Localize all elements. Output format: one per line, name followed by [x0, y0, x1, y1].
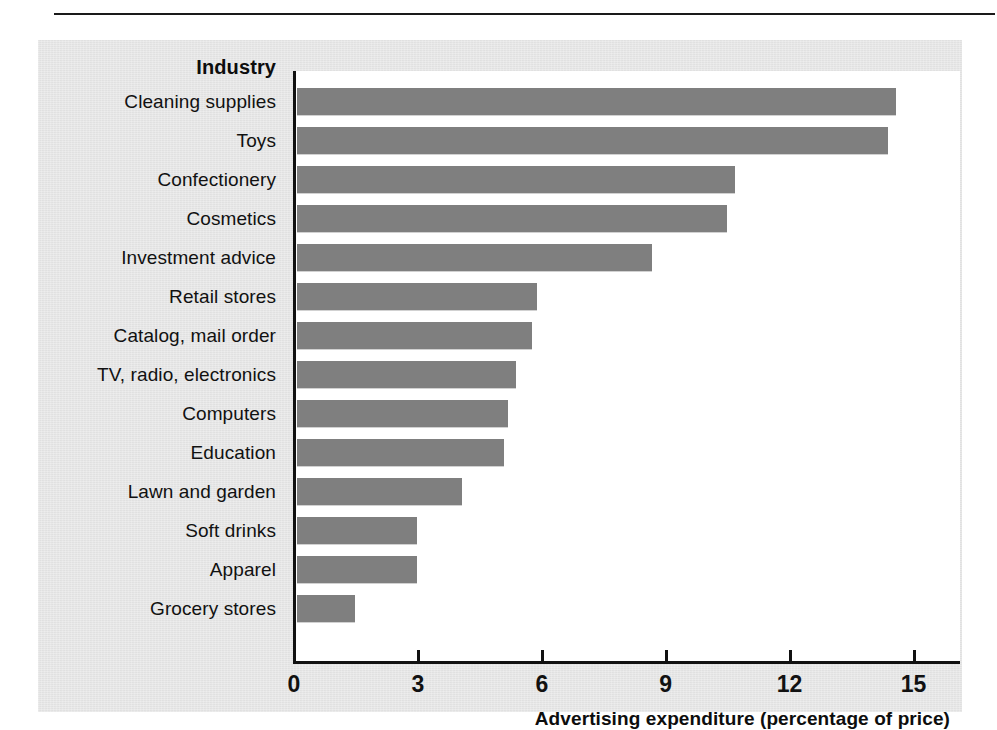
- x-axis-title: Advertising expenditure (percentage of p…: [38, 708, 950, 730]
- bar-row: [297, 433, 896, 472]
- figure-panel: Industry Cleaning suppliesToysConfection…: [38, 40, 962, 712]
- x-axis-tick-label: 0: [274, 671, 314, 698]
- x-axis-tick: [417, 650, 420, 664]
- bar: [297, 517, 417, 544]
- bar: [297, 88, 896, 115]
- x-axis-tick: [913, 650, 916, 664]
- category-label: Retail stores: [38, 277, 286, 316]
- bar-series: [297, 82, 896, 628]
- x-axis-tick-label: 6: [522, 671, 562, 698]
- bar-row: [297, 238, 896, 277]
- bar: [297, 400, 508, 427]
- bar-row: [297, 511, 896, 550]
- category-label: Investment advice: [38, 238, 286, 277]
- y-axis-line: [293, 71, 296, 663]
- category-label: Soft drinks: [38, 511, 286, 550]
- category-label: Grocery stores: [38, 589, 286, 628]
- bar-row: [297, 82, 896, 121]
- category-label: Computers: [38, 394, 286, 433]
- bar-row: [297, 550, 896, 589]
- category-label: Catalog, mail order: [38, 316, 286, 355]
- x-axis-tick: [541, 650, 544, 664]
- bar-row: [297, 355, 896, 394]
- x-axis-tick-label: 15: [894, 671, 934, 698]
- bar: [297, 283, 537, 310]
- category-label: Lawn and garden: [38, 472, 286, 511]
- category-label: Confectionery: [38, 160, 286, 199]
- bar-row: [297, 472, 896, 511]
- x-axis-line: [293, 661, 960, 664]
- category-axis-title: Industry: [38, 52, 286, 82]
- bar: [297, 205, 727, 232]
- bar: [297, 556, 417, 583]
- bar: [297, 322, 532, 349]
- x-axis-tick: [789, 650, 792, 664]
- bar-row: [297, 121, 896, 160]
- bar-row: [297, 394, 896, 433]
- category-label: TV, radio, electronics: [38, 355, 286, 394]
- category-label: Cosmetics: [38, 199, 286, 238]
- category-label: Apparel: [38, 550, 286, 589]
- bar: [297, 478, 462, 505]
- x-axis-tick-label: 12: [770, 671, 810, 698]
- bar-row: [297, 589, 896, 628]
- category-label: Education: [38, 433, 286, 472]
- bar: [297, 166, 735, 193]
- x-axis-tick-label: 3: [398, 671, 438, 698]
- bar-row: [297, 316, 896, 355]
- bar: [297, 244, 652, 271]
- bar-row: [297, 199, 896, 238]
- scan-top-fragment: [0, 0, 997, 12]
- x-axis-tick: [293, 650, 296, 664]
- category-axis-labels: Industry Cleaning suppliesToysConfection…: [38, 52, 286, 628]
- x-axis-tick-label: 9: [646, 671, 686, 698]
- bar: [297, 439, 504, 466]
- category-label: Cleaning supplies: [38, 82, 286, 121]
- bar-row: [297, 160, 896, 199]
- bar-row: [297, 277, 896, 316]
- bar: [297, 595, 355, 622]
- top-horizontal-rule: [54, 13, 995, 15]
- bar: [297, 361, 516, 388]
- category-label: Toys: [38, 121, 286, 160]
- bar: [297, 127, 888, 154]
- x-axis-tick: [665, 650, 668, 664]
